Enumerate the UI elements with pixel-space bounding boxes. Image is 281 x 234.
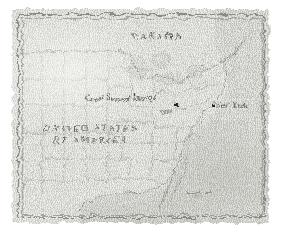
- map-geography: [12, 9, 269, 223]
- great-lakes: [128, 53, 208, 85]
- antique-map-figure: CANADA UNITED STATES OF AMERICA Great Se…: [0, 0, 281, 234]
- gulf-of-mexico-shading: [82, 159, 190, 223]
- state-boundaries-west: [20, 51, 130, 195]
- map-paper-sheet: CANADA UNITED STATES OF AMERICA Great Se…: [12, 9, 269, 223]
- us-canada-border: [20, 39, 244, 83]
